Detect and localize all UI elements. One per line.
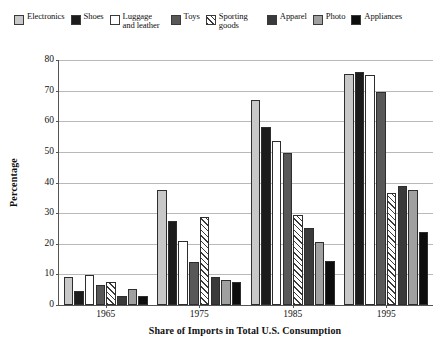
- bar-electronics-1975[interactable]: [157, 190, 167, 305]
- y-axis-tick-mark: [56, 305, 59, 306]
- bar-group-1975: 1975: [153, 60, 247, 305]
- bar-electronics-1965[interactable]: [64, 277, 74, 305]
- legend-swatch-icon: [313, 15, 323, 25]
- x-axis-tick-label: 1965: [59, 309, 153, 319]
- legend-swatch-icon: [14, 15, 24, 25]
- x-axis-tick-mark: [106, 305, 107, 308]
- y-axis-tick-label: 80: [30, 55, 54, 65]
- bar-electronics-1985[interactable]: [251, 100, 261, 305]
- bar-sporting-goods-1975[interactable]: [200, 217, 210, 305]
- legend-swatch-icon: [206, 15, 216, 25]
- bar-toys-1995[interactable]: [376, 92, 386, 305]
- bar-shoes-1985[interactable]: [261, 127, 271, 305]
- x-axis-tick-mark: [199, 305, 200, 308]
- legend-label: Sporting goods: [219, 12, 261, 31]
- legend-swatch-icon: [110, 15, 120, 25]
- bar-group-1985: 1985: [246, 60, 340, 305]
- legend-item-apparel[interactable]: Apparel: [267, 12, 307, 25]
- legend-item-toys[interactable]: Toys: [171, 12, 200, 25]
- bar-shoes-1965[interactable]: [74, 291, 84, 305]
- bar-apparel-1965[interactable]: [117, 296, 127, 305]
- y-axis-title-text: Percentage: [8, 158, 19, 207]
- bar-toys-1985[interactable]: [283, 153, 293, 305]
- bar-group-1965: 1965: [59, 60, 153, 305]
- bar-photo-1965[interactable]: [128, 289, 138, 305]
- bar-apparel-1995[interactable]: [398, 186, 408, 305]
- bar-appliances-1965[interactable]: [138, 296, 148, 305]
- bar-photo-1975[interactable]: [221, 280, 231, 305]
- bar-electronics-1995[interactable]: [344, 74, 354, 305]
- bar-sporting-goods-1965[interactable]: [106, 282, 116, 305]
- legend-item-photo[interactable]: Photo: [313, 12, 346, 25]
- legend-label: Photo: [326, 12, 346, 21]
- x-axis-tick-label: 1985: [246, 309, 340, 319]
- x-axis-title: Share of Imports in Total U.S. Consumpti…: [58, 325, 432, 336]
- bar-photo-1985[interactable]: [315, 242, 325, 305]
- legend-label: Electronics: [27, 12, 65, 21]
- legend-swatch-icon: [267, 15, 277, 25]
- x-axis-tick-label: 1975: [153, 309, 247, 319]
- bar-luggage-and-leather-1975[interactable]: [178, 241, 188, 305]
- legend-item-appliances[interactable]: Appliances: [351, 12, 402, 25]
- bar-sporting-goods-1985[interactable]: [293, 215, 303, 305]
- legend-item-electronics[interactable]: Electronics: [14, 12, 65, 25]
- bar-photo-1995[interactable]: [408, 190, 418, 305]
- bar-luggage-and-leather-1995[interactable]: [365, 75, 375, 305]
- y-axis-tick-label: 10: [30, 270, 54, 280]
- y-axis-tick-label: 40: [30, 178, 54, 188]
- bar-appliances-1985[interactable]: [325, 261, 335, 305]
- y-axis-tick-label: 50: [30, 147, 54, 157]
- y-axis-tick-label: 60: [30, 117, 54, 127]
- legend-label: Toys: [184, 12, 200, 21]
- bar-appliances-1975[interactable]: [232, 282, 242, 305]
- legend-label: Appliances: [364, 12, 402, 21]
- legend-item-luggage-and-leather[interactable]: Luggage and leather: [110, 12, 165, 31]
- bar-apparel-1975[interactable]: [211, 277, 221, 305]
- bar-shoes-1975[interactable]: [168, 221, 178, 305]
- bar-toys-1965[interactable]: [96, 285, 106, 305]
- bar-shoes-1995[interactable]: [355, 72, 365, 305]
- y-axis-tick-label: 20: [30, 239, 54, 249]
- y-axis-tick-label: 70: [30, 86, 54, 96]
- legend-swatch-icon: [71, 15, 81, 25]
- bar-luggage-and-leather-1965[interactable]: [85, 275, 95, 305]
- x-axis-tick-mark: [386, 305, 387, 308]
- legend-item-shoes[interactable]: Shoes: [71, 12, 104, 25]
- y-axis-tick-label: 30: [30, 208, 54, 218]
- legend-swatch-icon: [351, 15, 361, 25]
- bar-toys-1975[interactable]: [189, 262, 199, 305]
- x-axis-tick-mark: [293, 305, 294, 308]
- legend-label: Luggage and leather: [123, 12, 165, 31]
- legend-swatch-icon: [171, 15, 181, 25]
- y-axis-title: Percentage: [6, 60, 20, 305]
- x-axis-tick-label: 1995: [340, 309, 434, 319]
- legend-item-sporting-goods[interactable]: Sporting goods: [206, 12, 261, 31]
- bar-groups: 1965197519851995: [59, 60, 433, 305]
- chart-legend: ElectronicsShoesLuggage and leatherToysS…: [14, 12, 438, 54]
- plot-area: 01020304050607080 1965197519851995: [58, 60, 433, 306]
- bar-luggage-and-leather-1985[interactable]: [272, 141, 282, 305]
- legend-label: Apparel: [280, 12, 307, 21]
- bar-appliances-1995[interactable]: [419, 232, 429, 306]
- y-axis-tick-label: 0: [30, 300, 54, 310]
- bar-group-1995: 1995: [340, 60, 434, 305]
- bar-apparel-1985[interactable]: [304, 228, 314, 305]
- bar-sporting-goods-1995[interactable]: [387, 193, 397, 305]
- legend-label: Shoes: [84, 12, 104, 21]
- chart-page: ElectronicsShoesLuggage and leatherToysS…: [0, 0, 447, 352]
